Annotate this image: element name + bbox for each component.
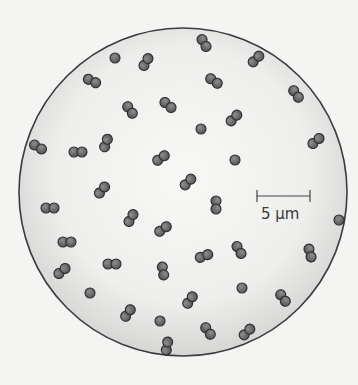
diplococcus-cell [41, 203, 59, 213]
scale-bar-label: 5 µm [261, 205, 299, 223]
diplococcus-cell [69, 147, 87, 157]
diplococcus-cell [211, 196, 221, 214]
coccus-cell [110, 53, 120, 63]
coccus-cell [155, 316, 165, 326]
diplococcus-cell [58, 237, 76, 247]
field-of-view-circle [19, 28, 347, 356]
coccus-cell [230, 155, 240, 165]
microscope-figure [0, 0, 358, 385]
coccus-cell [85, 288, 95, 298]
coccus-cell [334, 215, 344, 225]
coccus-cell [196, 124, 206, 134]
coccus-cell [237, 283, 247, 293]
diplococcus-cell [103, 259, 121, 269]
